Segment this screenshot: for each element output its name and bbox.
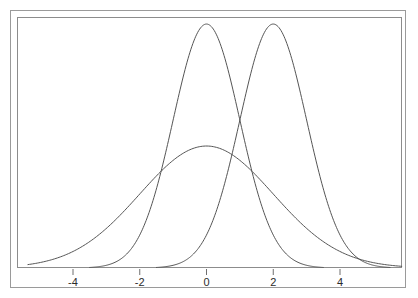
x-tick-label-0: 0 (203, 277, 209, 288)
plot-panel-box (17, 17, 402, 268)
x-tick-label-2: 2 (270, 277, 276, 288)
x-tick-label--2: -2 (135, 277, 145, 288)
figure-container: -4-2024 (0, 0, 418, 298)
x-tick-label-4: 4 (337, 277, 343, 288)
x-tick-label--4: -4 (68, 277, 78, 288)
